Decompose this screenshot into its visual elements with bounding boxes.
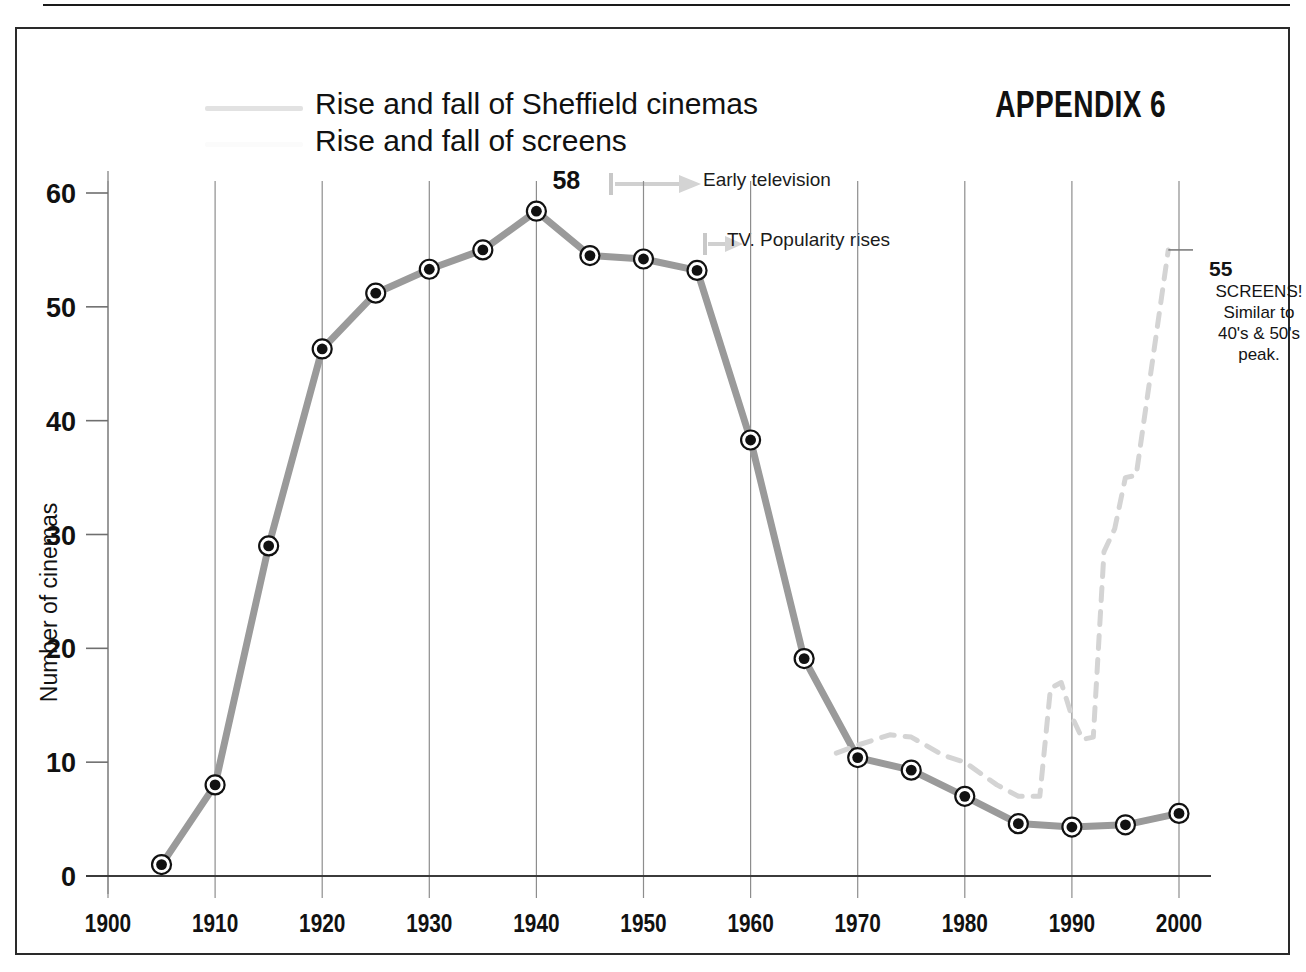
data-point-dot xyxy=(959,791,970,802)
x-axis-tick-label: 1950 xyxy=(620,909,666,938)
y-axis-tick-label: 20 xyxy=(46,634,76,664)
chart-plot-area: 0102030405060190019101920193019401950196… xyxy=(17,29,1288,953)
series-line-cinemas xyxy=(162,211,1179,864)
data-point-dot xyxy=(799,653,810,664)
x-axis-tick-label: 1920 xyxy=(299,909,345,938)
data-point-dot xyxy=(531,206,542,217)
data-point-dot xyxy=(370,288,381,299)
x-axis-tick-label: 1990 xyxy=(1049,909,1095,938)
y-axis-tick-label: 40 xyxy=(46,407,76,437)
y-axis-tick-label: 50 xyxy=(46,293,76,323)
data-point-dot xyxy=(263,540,274,551)
y-axis-tick-label: 0 xyxy=(61,862,76,892)
y-axis-tick-label: 10 xyxy=(46,748,76,778)
data-point-dot xyxy=(1120,819,1131,830)
data-point-dot xyxy=(317,344,328,355)
data-point-dot xyxy=(692,265,703,276)
data-point-dot xyxy=(852,752,863,763)
top-rule-divider xyxy=(43,4,1290,6)
data-point-dot xyxy=(745,435,756,446)
y-axis-tick-label: 60 xyxy=(46,179,76,209)
peak-value-label: 58 xyxy=(552,166,580,194)
y-axis-tick-label: 30 xyxy=(46,521,76,551)
data-point-dot xyxy=(585,250,596,261)
data-point-dot xyxy=(477,245,488,256)
data-point-dot xyxy=(424,264,435,275)
data-point-dot xyxy=(156,859,167,870)
x-axis-tick-label: 2000 xyxy=(1156,909,1202,938)
data-point-dot xyxy=(1013,818,1024,829)
series-line-screens xyxy=(836,250,1168,796)
data-point-dot xyxy=(210,780,221,791)
x-axis-tick-label: 1980 xyxy=(942,909,988,938)
x-axis-tick-label: 1970 xyxy=(835,909,881,938)
chart-frame: Rise and fall of Sheffield cinemas Rise … xyxy=(15,27,1290,955)
x-axis-tick-label: 1940 xyxy=(513,909,559,938)
data-point-dot xyxy=(1067,822,1078,833)
x-axis-tick-label: 1960 xyxy=(727,909,773,938)
appendix-chart-page: Rise and fall of Sheffield cinemas Rise … xyxy=(0,0,1306,972)
data-point-dot xyxy=(1174,808,1185,819)
x-axis-tick-label: 1910 xyxy=(192,909,238,938)
x-axis-tick-label: 1930 xyxy=(406,909,452,938)
data-point-dot xyxy=(638,254,649,265)
x-axis-tick-label: 1900 xyxy=(85,909,131,938)
data-point-dot xyxy=(906,765,917,776)
